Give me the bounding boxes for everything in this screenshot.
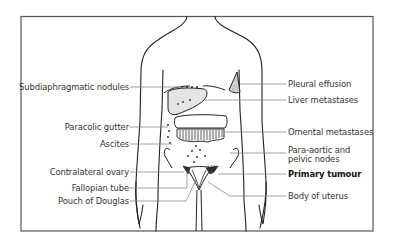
label-pouch-of-douglas: Pouch of Douglas: [58, 196, 129, 206]
anatomy-diagram: [0, 0, 396, 247]
label-fallopian-tube: Fallopian tube: [72, 183, 129, 193]
ascites-dots: [187, 145, 206, 163]
transverse-colon: [174, 115, 227, 128]
label-para-aortic-line2: pelvic nodes: [288, 154, 339, 164]
left-arm-line: [156, 70, 163, 231]
omentum: [177, 129, 224, 142]
label-subdiaphragmatic-nodules: Subdiaphragmatic nodules: [19, 82, 129, 92]
left-iliac-hook: [164, 148, 172, 168]
label-paracolic-gutter: Paracolic gutter: [65, 122, 129, 132]
label-ascites: Ascites: [100, 139, 129, 149]
label-omental-metastases: Omental metastases: [288, 127, 373, 137]
right-iliac-hook: [230, 148, 239, 168]
label-liver-metastases: Liver metastases: [288, 95, 358, 105]
label-pleural-effusion: Pleural effusion: [288, 79, 351, 89]
leader-lines: [130, 84, 286, 201]
liver: [168, 88, 207, 115]
right-arm-line: [239, 70, 246, 231]
label-primary-tumour: Primary tumour: [288, 169, 361, 179]
label-body-of-uterus: Body of uterus: [288, 191, 348, 201]
label-contralateral-ovary: Contralateral ovary: [50, 167, 129, 177]
vagina: [196, 190, 202, 231]
pleural-effusion: [229, 72, 240, 93]
